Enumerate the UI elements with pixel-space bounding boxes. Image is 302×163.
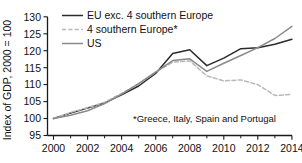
x-tick-label-2010: 2010 bbox=[212, 142, 236, 154]
legend-label-us: US bbox=[87, 37, 102, 49]
footnote-annotation: *Greece, Italy, Spain and Portugal bbox=[133, 113, 276, 124]
x-tick-label-2002: 2002 bbox=[76, 142, 100, 154]
x-tick-label-2004: 2004 bbox=[110, 142, 134, 154]
y-tick-label-110: 110 bbox=[24, 78, 41, 90]
y-tick-label-105: 105 bbox=[23, 95, 41, 107]
x-tick-label-2014: 2014 bbox=[280, 142, 302, 154]
x-tick-label-2006: 2006 bbox=[144, 142, 168, 154]
legend-label-eu-exc-4-southern-europe: EU exc. 4 southern Europe bbox=[87, 9, 213, 21]
x-tick-label-2008: 2008 bbox=[178, 142, 202, 154]
y-tick-label-120: 120 bbox=[23, 45, 41, 57]
legend-label-4-southern-europe: 4 southern Europe* bbox=[87, 23, 177, 35]
legend: EU exc. 4 southern Europe 4 southern Eur… bbox=[62, 9, 213, 49]
y-tick-label-115: 115 bbox=[24, 62, 41, 74]
series-line-eu-exc-4-southern-europe bbox=[54, 39, 292, 118]
y-tick-label-125: 125 bbox=[23, 28, 41, 40]
line-chart: Index of GDP, 2000 = 100 130 125 120 115… bbox=[0, 0, 302, 163]
y-tick-label-95: 95 bbox=[29, 129, 41, 141]
x-tick-label-2000: 2000 bbox=[42, 142, 66, 154]
y-tick-label-100: 100 bbox=[23, 112, 41, 124]
y-axis-title: Index of GDP, 2000 = 100 bbox=[1, 20, 13, 141]
x-tick-label-2012: 2012 bbox=[246, 142, 270, 154]
chart-container: Index of GDP, 2000 = 100 130 125 120 115… bbox=[0, 0, 302, 163]
y-tick-label-130: 130 bbox=[23, 11, 41, 23]
